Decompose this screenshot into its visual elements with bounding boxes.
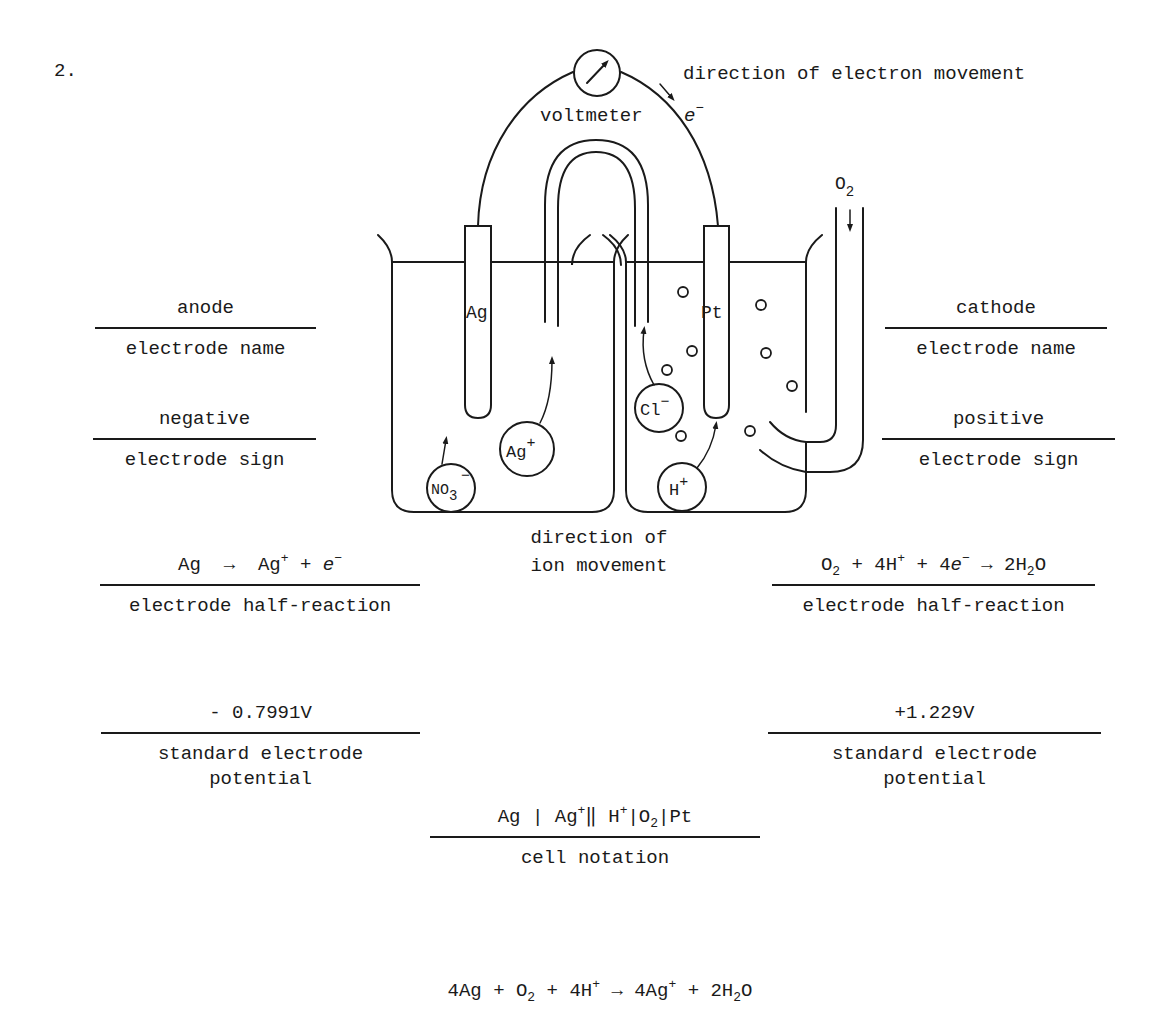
ion-direction-line1: direction of xyxy=(494,524,704,552)
chloride-ion-label: Cl− xyxy=(640,394,669,420)
hydrogen-ion-label: H+ xyxy=(669,474,688,500)
right-electrode-name-label: electrode name xyxy=(885,337,1107,362)
answer-line xyxy=(768,732,1101,734)
answer-line xyxy=(772,584,1095,586)
electron-label: e− xyxy=(684,100,704,127)
platinum-electrode-label: Pt xyxy=(701,303,723,323)
right-potential-value: +1.229V xyxy=(768,704,1101,726)
cell-notation-label: cell notation xyxy=(430,846,760,871)
left-potential-label: standard electrode potential xyxy=(101,742,420,792)
left-electrode-name-value: anode xyxy=(95,299,316,321)
cell-notation-field: Ag | Ag+‖ H+|O2|Pt cell notation xyxy=(430,808,760,871)
answer-line xyxy=(95,327,316,329)
left-half-reaction-field: Ag → Ag+ + e− electrode half-reaction xyxy=(100,556,420,619)
oxygen-inlet-label: O2 xyxy=(835,174,854,200)
right-potential-field: +1.229V standard electrode potential xyxy=(768,704,1101,792)
chloride-arrow xyxy=(643,330,654,385)
hydrogen-ion-arrow xyxy=(697,425,716,468)
left-half-reaction-label: electrode half-reaction xyxy=(100,594,420,619)
answer-line xyxy=(885,327,1107,329)
voltmeter-label: voltmeter xyxy=(540,105,643,127)
right-half-reaction-label: electrode half-reaction xyxy=(772,594,1095,619)
nitrate-ion-label: NO3 xyxy=(431,482,457,504)
electron-direction-arrow xyxy=(660,84,672,98)
nitrate-ion-charge: − xyxy=(461,468,470,485)
right-potential-label: standard electrode potential xyxy=(768,742,1101,792)
right-beaker xyxy=(610,235,822,512)
left-electrode-name-field: anode electrode name xyxy=(95,299,316,362)
left-potential-field: - 0.7991V standard electrode potential xyxy=(101,704,420,792)
right-electrode-sign-label: electrode sign xyxy=(882,448,1115,473)
right-electrode-name-value: cathode xyxy=(885,299,1107,321)
right-half-reaction-value: O2 + 4H+ + 4e− → 2H2O xyxy=(772,556,1095,578)
answer-line xyxy=(101,732,420,734)
answer-line xyxy=(430,836,760,838)
salt-bridge xyxy=(545,140,648,326)
voltmeter-icon xyxy=(574,50,620,96)
ion-direction-label: direction of ion movement xyxy=(494,524,704,580)
right-half-reaction-field: O2 + 4H+ + 4e− → 2H2O electrode half-rea… xyxy=(772,556,1095,619)
left-electrode-sign-label: electrode sign xyxy=(93,448,316,473)
answer-line xyxy=(882,438,1115,440)
left-electrode-sign-field: negative electrode sign xyxy=(93,410,316,473)
nitrate-arrow xyxy=(442,440,446,464)
electron-direction-label: direction of electron movement xyxy=(683,63,1025,85)
right-electrode-sign-value: positive xyxy=(882,410,1115,432)
overall-reaction: 4Ag + O2 + 4H+ → 4Ag+ + 2H2O xyxy=(380,982,820,1001)
cell-notation-value: Ag | Ag+‖ H+|O2|Pt xyxy=(430,808,760,830)
left-electrode-sign-value: negative xyxy=(93,410,316,432)
left-potential-value: - 0.7991V xyxy=(101,704,420,726)
silver-ion-arrow xyxy=(540,360,552,423)
silver-ion-label: Ag+ xyxy=(506,435,535,462)
left-electrode-name-label: electrode name xyxy=(95,337,316,362)
left-half-reaction-value: Ag → Ag+ + e− xyxy=(100,556,420,578)
right-electrode-sign-field: positive electrode sign xyxy=(882,410,1115,473)
answer-line xyxy=(93,438,316,440)
silver-electrode-label: Ag xyxy=(466,303,488,323)
left-beaker xyxy=(378,235,628,512)
answer-line xyxy=(100,584,420,586)
ion-direction-line2: ion movement xyxy=(494,552,704,580)
right-electrode-name-field: cathode electrode name xyxy=(885,299,1107,362)
